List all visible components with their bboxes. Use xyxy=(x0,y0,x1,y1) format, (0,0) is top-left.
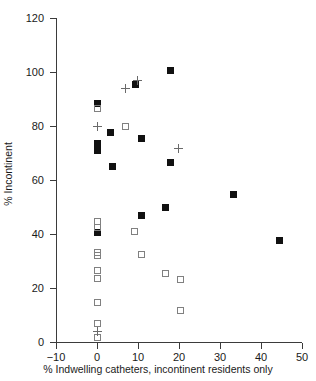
x-tick-mark xyxy=(56,343,57,349)
x-tick-label: 40 xyxy=(241,352,281,363)
data-point-open-square xyxy=(94,252,101,259)
x-axis-label: % Indwelling catheters, incontinent resi… xyxy=(0,363,316,375)
x-tick-label: −10 xyxy=(36,352,76,363)
data-point-filled-square xyxy=(109,163,116,170)
data-point-open-square xyxy=(94,275,101,282)
data-point-open-square xyxy=(94,299,101,306)
y-tick-label: 40 xyxy=(10,229,44,240)
data-point-plus xyxy=(93,327,102,336)
data-point-open-square xyxy=(138,251,145,258)
data-point-open-square xyxy=(162,270,169,277)
data-point-filled-square xyxy=(107,129,114,136)
data-point-open-square xyxy=(94,320,101,327)
data-point-open-square xyxy=(177,276,184,283)
data-point-open-square xyxy=(94,105,101,112)
x-tick-mark xyxy=(97,343,98,349)
data-point-plus xyxy=(174,144,183,153)
data-point-plus xyxy=(121,84,130,93)
data-point-open-square xyxy=(131,228,138,235)
y-tick-label: 20 xyxy=(10,283,44,294)
x-tick-label: 10 xyxy=(118,352,158,363)
x-tick-label: 0 xyxy=(77,352,117,363)
data-point-filled-square xyxy=(276,237,283,244)
x-tick-label: 50 xyxy=(282,352,316,363)
data-point-filled-square xyxy=(230,191,237,198)
y-tick-label: 100 xyxy=(10,67,44,78)
data-point-filled-square xyxy=(138,212,145,219)
scatter-plot-figure: 020406080100120 −1001020304050 % Inconti… xyxy=(0,0,316,381)
x-tick-label: 20 xyxy=(159,352,199,363)
y-tick-label: 0 xyxy=(10,337,44,348)
data-point-open-square xyxy=(94,224,101,231)
x-tick-mark xyxy=(220,343,221,349)
data-point-open-square xyxy=(122,123,129,130)
data-point-plus xyxy=(133,76,142,85)
data-point-open-square xyxy=(177,307,184,314)
y-tick-label: 60 xyxy=(10,175,44,186)
y-tick-label: 80 xyxy=(10,121,44,132)
data-point-plus xyxy=(93,122,102,131)
x-tick-mark xyxy=(138,343,139,349)
y-tick-label: 120 xyxy=(10,13,44,24)
x-tick-mark xyxy=(179,343,180,349)
data-point-open-square xyxy=(94,267,101,274)
x-tick-mark xyxy=(261,343,262,349)
data-point-filled-square xyxy=(167,67,174,74)
x-tick-label: 30 xyxy=(200,352,240,363)
data-point-filled-square xyxy=(167,159,174,166)
x-tick-mark xyxy=(302,343,303,349)
y-axis-label: % Incontinent xyxy=(2,124,14,224)
data-point-filled-square xyxy=(94,147,101,154)
plot-data-area xyxy=(56,18,302,342)
data-point-filled-square xyxy=(162,204,169,211)
data-point-filled-square xyxy=(138,135,145,142)
